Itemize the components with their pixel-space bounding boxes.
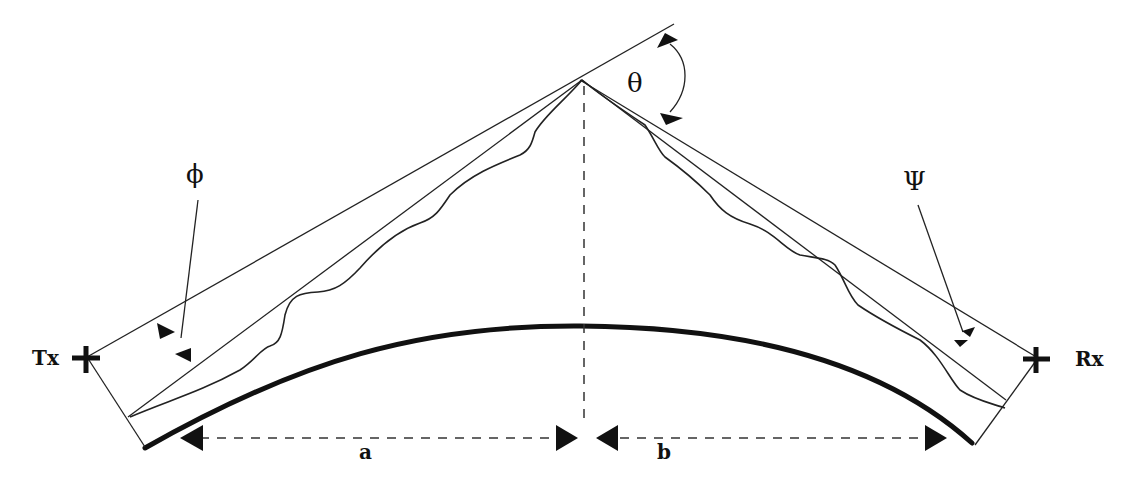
distance-b-left-arrow	[596, 425, 618, 451]
diagram-canvas: Tx Rx θ ϕ Ψ a b	[0, 0, 1134, 487]
distance-a-label: a	[359, 440, 372, 464]
tx-horizon-ray	[87, 24, 674, 357]
theta-angle-arc	[670, 44, 685, 112]
psi-label: Ψ	[903, 166, 926, 196]
terrain-profile	[130, 80, 1005, 417]
phi-arrow-lower	[175, 348, 191, 362]
diffraction-diagram: Tx Rx θ ϕ Ψ a b	[0, 0, 1134, 487]
psi-leader-line	[918, 205, 963, 332]
phi-label: ϕ	[186, 159, 204, 189]
psi-arrow-lower	[954, 340, 968, 347]
theta-label: θ	[627, 68, 643, 98]
rx-label: Rx	[1075, 347, 1105, 371]
tx-inner-ray	[128, 80, 582, 417]
distance-a-right-arrow	[556, 425, 578, 451]
tx-marker-icon	[72, 346, 100, 373]
distance-b-right-arrow	[925, 425, 947, 451]
theta-arrow-top	[657, 33, 678, 48]
theta-arrow-bottom	[660, 113, 683, 125]
rx-horizon-ray	[580, 80, 1038, 358]
psi-arrow-upper	[962, 327, 975, 337]
distance-b-label: b	[657, 440, 671, 464]
tx-baseline-edge	[87, 357, 145, 447]
phi-leader-line	[181, 200, 198, 338]
phi-arrow-upper	[157, 323, 175, 339]
tx-label: Tx	[32, 346, 60, 370]
